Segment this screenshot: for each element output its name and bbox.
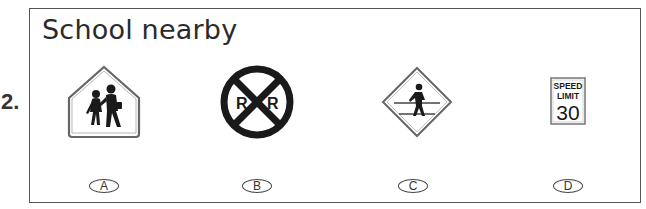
question-number: 2. <box>1 89 19 115</box>
question-title: School nearby <box>42 14 237 45</box>
railroad-crossing-sign-icon[interactable]: R R <box>220 65 294 139</box>
option-d-button[interactable]: D <box>553 179 583 193</box>
option-c-button[interactable]: C <box>398 179 428 193</box>
railroad-r-right: R <box>267 95 279 112</box>
pedestrian-crossing-sign-icon[interactable] <box>381 66 453 138</box>
option-a-button[interactable]: A <box>89 179 119 193</box>
speed-value: 30 <box>556 101 579 124</box>
railroad-r-left: R <box>236 95 248 112</box>
option-b-button[interactable]: B <box>242 179 272 193</box>
school-zone-sign-icon[interactable] <box>66 64 142 140</box>
speed-limit-sign-icon[interactable]: SPEED LIMIT 30 <box>550 77 586 125</box>
speed-label: SPEED <box>554 81 583 91</box>
limit-label: LIMIT <box>557 91 580 101</box>
